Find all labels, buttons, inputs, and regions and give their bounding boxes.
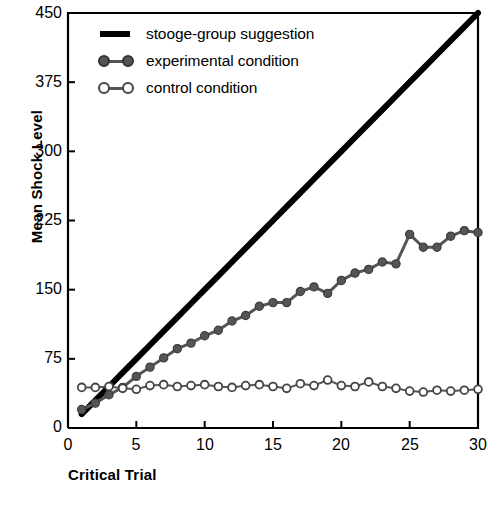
series-experimental-condition-marker: [283, 298, 291, 306]
series-control-condition-marker: [78, 384, 86, 392]
series-control-condition-marker: [119, 384, 127, 392]
series-control-condition-marker: [378, 383, 386, 391]
chart-figure: Mean Shock Level Critical Trial 450 375 …: [0, 0, 498, 505]
legend-swatch-open-circle-icon: [95, 79, 137, 97]
series-control-condition-line: [82, 380, 478, 392]
series-experimental-condition-marker: [406, 230, 414, 238]
series-control-condition-marker: [91, 384, 99, 392]
series-control-condition-marker: [214, 383, 222, 391]
series-experimental-condition-line: [82, 231, 478, 410]
series-control-condition-marker: [406, 387, 414, 395]
series-experimental-condition-marker: [269, 298, 277, 306]
series-control-condition-marker: [201, 381, 209, 389]
legend-item-control: control condition: [95, 76, 395, 100]
series-experimental-condition-marker: [160, 354, 168, 362]
series-experimental-condition-marker: [132, 372, 140, 380]
series-experimental-condition-marker: [337, 276, 345, 284]
series-experimental-condition-marker: [474, 228, 482, 236]
series-control-condition-marker: [255, 381, 263, 389]
series-experimental-condition-marker: [91, 399, 99, 407]
series-experimental-condition-marker: [78, 405, 86, 413]
series-control-condition-marker: [419, 388, 427, 396]
legend-item-experimental: experimental condition: [95, 49, 395, 73]
series-control-condition-marker: [146, 382, 154, 390]
series-control-condition-marker: [160, 381, 168, 389]
legend-swatch-filled-circle-icon: [95, 52, 137, 70]
series-control-condition-marker: [173, 383, 181, 391]
series-experimental-condition-marker: [419, 243, 427, 251]
legend-label: stooge-group suggestion: [146, 25, 314, 43]
series-experimental-condition-marker: [310, 283, 318, 291]
legend-item-stooge: stooge-group suggestion: [95, 22, 395, 46]
legend-swatch-bar-icon: [95, 25, 137, 43]
series-experimental-condition-marker: [214, 326, 222, 334]
series-experimental-condition-marker: [242, 311, 250, 319]
series-control-condition-marker: [105, 383, 113, 391]
series-experimental-condition-marker: [447, 232, 455, 240]
series-control-condition-marker: [296, 380, 304, 388]
series-control-condition-marker: [474, 385, 482, 393]
series-control-condition-marker: [132, 385, 140, 393]
legend-label: experimental condition: [146, 52, 299, 70]
legend-label: control condition: [146, 79, 257, 97]
series-experimental-condition-marker: [228, 317, 236, 325]
series-experimental-condition-marker: [365, 265, 373, 273]
series-experimental-condition-marker: [433, 243, 441, 251]
series-experimental-condition-marker: [296, 287, 304, 295]
series-experimental-condition-marker: [378, 258, 386, 266]
series-control-condition-marker: [460, 386, 468, 394]
series-control-condition-marker: [269, 383, 277, 391]
series-experimental-condition-marker: [187, 339, 195, 347]
series-control-condition-marker: [187, 382, 195, 390]
series-experimental-condition-marker: [351, 269, 359, 277]
series-control-condition-marker: [392, 384, 400, 392]
series-experimental-condition-marker: [201, 332, 209, 340]
series-control-condition-marker: [310, 382, 318, 390]
series-control-condition-marker: [242, 382, 250, 390]
series-experimental-condition-marker: [460, 227, 468, 235]
series-experimental-condition-marker: [146, 363, 154, 371]
series-control-condition-marker: [324, 376, 332, 384]
series-control-condition-marker: [337, 382, 345, 390]
series-control-condition-marker: [433, 386, 441, 394]
series-experimental-condition-marker: [392, 260, 400, 268]
series-experimental-condition-marker: [255, 302, 263, 310]
series-control-condition-marker: [447, 387, 455, 395]
series-experimental-condition-marker: [105, 391, 113, 399]
chart-legend: stooge-group suggestion experimental con…: [95, 22, 395, 103]
series-experimental-condition-marker: [173, 345, 181, 353]
series-experimental-condition-marker: [324, 289, 332, 297]
series-control-condition-marker: [365, 378, 373, 386]
series-control-condition-marker: [283, 384, 291, 392]
series-control-condition-marker: [351, 383, 359, 391]
series-control-condition-marker: [228, 384, 236, 392]
